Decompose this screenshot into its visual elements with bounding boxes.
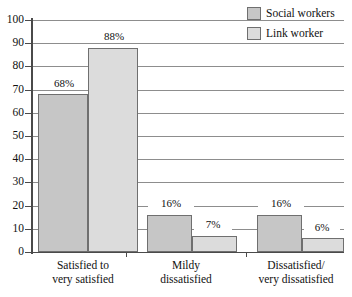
y-tick-mark-100: [25, 20, 33, 21]
bar-link-worker-satisfied: [88, 48, 138, 252]
x-category-label-satisfied-line1: Satisfied to: [28, 258, 138, 272]
plot-area: [32, 20, 344, 252]
y-tick-mark-60: [25, 113, 33, 114]
y-tick-label-30: 30: [0, 176, 24, 187]
x-category-label-dissatisfied: Dissatisfied/ very dissatisfied: [240, 258, 352, 286]
legend-label-link-worker: Link worker: [266, 27, 323, 39]
y-tick-label-80: 80: [0, 60, 24, 71]
bar-social-workers-mildy: [147, 215, 192, 252]
y-tick-label-10: 10: [0, 223, 24, 234]
value-label-social-workers-mildy: 16%: [148, 198, 194, 209]
bar-link-worker-mildy: [192, 236, 237, 252]
x-category-label-satisfied-line2: very satisfied: [28, 272, 138, 286]
legend-swatch-link-worker: [247, 27, 261, 40]
x-category-label-mildy-line1: Mildy: [136, 258, 236, 272]
x-category-label-mildy-line2: dissatisfied: [136, 272, 236, 286]
bar-social-workers-dissatisfied: [257, 215, 302, 252]
legend-item-link-worker: Link worker: [247, 24, 351, 42]
value-label-social-workers-satisfied: 68%: [40, 78, 88, 89]
value-label-link-worker-satisfied: 88%: [90, 31, 138, 42]
gridline-70: [32, 90, 344, 91]
value-label-link-worker-mildy: 7%: [194, 219, 232, 230]
y-tick-mark-0: [25, 252, 33, 253]
y-tick-label-90: 90: [0, 37, 24, 48]
y-tick-label-60: 60: [0, 107, 24, 118]
x-tick-mark-1: [126, 252, 127, 257]
y-tick-mark-50: [25, 136, 33, 137]
x-category-label-mildy: Mildy dissatisfied: [136, 258, 236, 286]
legend-swatch-social-workers: [247, 7, 261, 20]
value-label-link-worker-dissatisfied: 6%: [304, 222, 340, 233]
y-tick-mark-90: [25, 43, 33, 44]
y-tick-mark-70: [25, 90, 33, 91]
x-category-label-satisfied: Satisfied to very satisfied: [28, 258, 138, 286]
gridline-80: [32, 66, 344, 67]
x-category-label-dissatisfied-line1: Dissatisfied/: [240, 258, 352, 272]
y-tick-label-70: 70: [0, 84, 24, 95]
legend: Social workers Link worker: [247, 4, 351, 44]
y-tick-mark-80: [25, 66, 33, 67]
y-tick-label-20: 20: [0, 200, 24, 211]
y-tick-label-100: 100: [0, 14, 24, 25]
y-tick-mark-30: [25, 182, 33, 183]
legend-label-social-workers: Social workers: [266, 7, 335, 19]
value-label-social-workers-dissatisfied: 16%: [258, 198, 304, 209]
y-tick-mark-20: [25, 206, 33, 207]
y-tick-label-40: 40: [0, 153, 24, 164]
x-category-label-dissatisfied-line2: very dissatisfied: [240, 272, 352, 286]
y-tick-mark-10: [25, 229, 33, 230]
y-tick-mark-40: [25, 159, 33, 160]
bar-link-worker-dissatisfied: [302, 238, 344, 252]
legend-item-social-workers: Social workers: [247, 4, 351, 22]
x-tick-mark-2: [246, 252, 247, 257]
y-tick-label-50: 50: [0, 130, 24, 141]
y-tick-label-0: 0: [0, 246, 24, 257]
bar-chart: 100 90 80 70 60 50 40 30 20 10 0 68% 88%…: [0, 0, 352, 297]
bar-social-workers-satisfied: [38, 94, 88, 252]
x-axis-line: [31, 252, 344, 253]
